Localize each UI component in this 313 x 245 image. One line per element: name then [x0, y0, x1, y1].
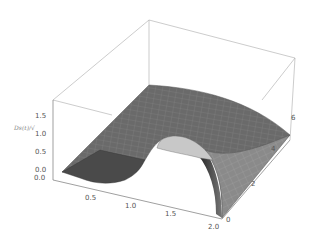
svg-text:1.0: 1.0	[35, 130, 46, 138]
svg-text:0.0: 0.0	[34, 174, 45, 182]
svg-text:2: 2	[251, 180, 255, 188]
svg-text:6: 6	[291, 114, 296, 122]
z-axis-label: Ds(t)/√	[13, 124, 35, 131]
svg-text:0: 0	[226, 216, 230, 224]
z-axis-ticks: 1.5 1.0 0.5 0.0	[35, 112, 46, 174]
surface-plot: 1.5 1.0 0.5 0.0 Ds(t)/√ 0.0 0.5 1.0 1.5 …	[0, 0, 313, 245]
svg-text:0.5: 0.5	[35, 148, 46, 156]
svg-text:1.5: 1.5	[35, 112, 46, 120]
svg-text:1.0: 1.0	[125, 202, 136, 210]
svg-text:2.0: 2.0	[208, 223, 219, 231]
x-axis-ticks: 0.0 0.5 1.0 1.5 2.0	[34, 174, 219, 231]
svg-text:0.0: 0.0	[35, 166, 46, 174]
svg-text:1.5: 1.5	[165, 210, 176, 218]
svg-text:0.5: 0.5	[85, 194, 96, 202]
svg-text:4: 4	[271, 145, 276, 153]
